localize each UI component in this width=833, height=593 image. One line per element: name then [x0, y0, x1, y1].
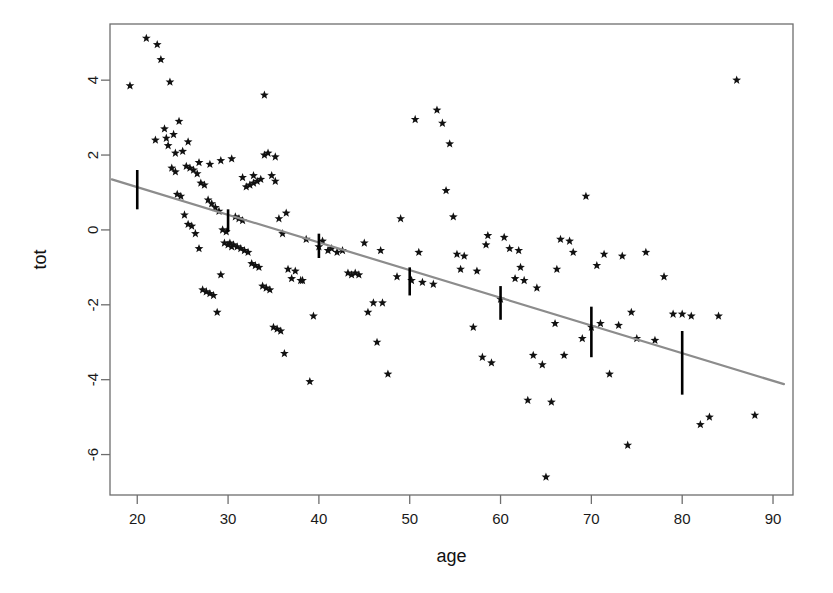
chart-canvas: 2030405060708090420-2-4-6 age tot — [0, 0, 833, 593]
scatter-plot-svg: 2030405060708090420-2-4-6 age tot — [0, 0, 833, 593]
y-tick-label: 2 — [85, 151, 102, 159]
x-axis-title: age — [436, 546, 466, 566]
y-tick-label: 0 — [85, 226, 102, 234]
y-tick-label: -4 — [85, 373, 102, 386]
x-tick-label: 60 — [492, 510, 509, 527]
y-tick-label: 4 — [85, 76, 102, 84]
y-axis-title: tot — [30, 249, 50, 269]
x-tick-label: 70 — [583, 510, 600, 527]
x-tick-label: 50 — [401, 510, 418, 527]
x-tick-label: 80 — [674, 510, 691, 527]
plot-background — [0, 0, 833, 593]
x-tick-label: 90 — [765, 510, 782, 527]
y-tick-label: -2 — [85, 298, 102, 311]
x-tick-label: 20 — [129, 510, 146, 527]
x-tick-label: 30 — [220, 510, 237, 527]
x-tick-label: 40 — [311, 510, 328, 527]
y-tick-label: -6 — [85, 448, 102, 461]
